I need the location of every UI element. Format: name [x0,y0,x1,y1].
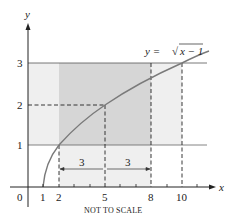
y-axis-arrow-icon [26,23,31,30]
y-tick-label-1: 1 [17,139,23,151]
x-axis-arrow-icon [209,185,216,190]
x-tick-label-5: 5 [102,191,108,203]
x-tick-label-10: 10 [176,191,188,203]
svg-text:√: √ [172,45,179,57]
y-axis-label: y [24,8,30,20]
y-tick-label-3: 3 [17,57,23,69]
x-tick-label-1: 1 [40,191,46,203]
x-tick-label-8: 8 [148,191,154,203]
interval-label-right: 3 [125,156,131,168]
svg-text:y =: y = [144,45,160,57]
interval-label-left: 3 [79,156,85,168]
x-tick-label-2: 2 [56,191,62,203]
sqrt-function-diagram: y x 0 1 2 5 8 10 1 2 3 3 3 y = √ x − 1 N… [0,0,231,218]
not-to-scale-note: NOT TO SCALE [84,206,142,215]
function-label: y = √ x − 1 [144,44,203,57]
light-band-left [28,63,59,145]
y-tick-label-2: 2 [17,99,23,111]
x-axis-label: x [218,181,224,193]
svg-text:x − 1: x − 1 [179,45,203,57]
origin-label: 0 [17,191,23,203]
